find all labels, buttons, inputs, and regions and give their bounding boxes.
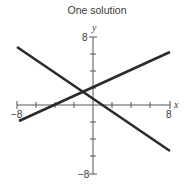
x-axis-label: x bbox=[173, 99, 179, 110]
x-max-label: 8 bbox=[166, 109, 172, 120]
y-axis-label: y bbox=[91, 22, 97, 33]
x-axis: −8 8 x bbox=[11, 99, 179, 120]
y-min-label: −8 bbox=[78, 169, 90, 180]
x-min-label: −8 bbox=[11, 109, 23, 120]
chart-plot: −8 8 x 8 −8 y bbox=[0, 0, 194, 188]
y-max-label: 8 bbox=[82, 32, 88, 43]
